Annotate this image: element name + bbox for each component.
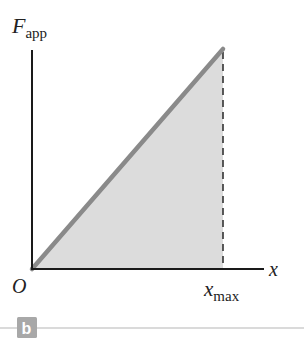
y-axis-label: Fapp xyxy=(11,13,47,41)
force-vs-displacement-diagram: Fapp x O xmax b xyxy=(0,0,304,344)
xmax-label: xmax xyxy=(203,277,240,304)
panel-tag-label: b xyxy=(22,320,32,337)
origin-label: O xyxy=(12,275,26,297)
x-axis-label: x xyxy=(268,258,278,280)
